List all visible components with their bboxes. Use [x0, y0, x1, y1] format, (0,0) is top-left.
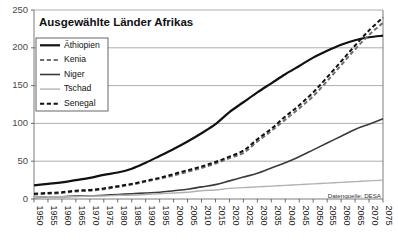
- x-tick-label: 1975: [105, 206, 115, 226]
- x-tick-label: 2065: [356, 206, 366, 226]
- y-tick-label: 100: [12, 117, 28, 128]
- x-tick-label: 2040: [287, 206, 297, 226]
- x-tick-label: 1965: [77, 206, 87, 226]
- legend: ÄthiopienKeniaNigerTschadSenegal: [36, 38, 108, 111]
- y-tick-label: 200: [12, 41, 28, 52]
- x-tick-label: 2060: [342, 206, 352, 226]
- legend-label-niger: Niger: [64, 69, 85, 79]
- chart-container: 050100150200250 195019551960196519701975…: [0, 0, 398, 248]
- legend-label-tschad: Tschad: [64, 83, 91, 93]
- y-tick-label: 250: [12, 4, 28, 15]
- x-tick-label: 1990: [147, 206, 157, 226]
- line-chart: 050100150200250 195019551960196519701975…: [0, 0, 398, 248]
- x-tick-label: 2050: [315, 206, 325, 226]
- x-tick-label: 2030: [259, 206, 269, 226]
- x-tick-label: 2010: [203, 206, 213, 226]
- x-tick-label: 2045: [301, 206, 311, 226]
- x-tick-label: 2075: [384, 206, 394, 226]
- x-tick-label: 1985: [133, 206, 143, 226]
- y-tick-label: 0: [23, 193, 28, 204]
- source-note: Datenquelle: DESA: [328, 192, 382, 199]
- x-tick-label: 1955: [49, 206, 59, 226]
- chart-title: Ausgewählte Länder Afrikas: [39, 16, 193, 28]
- x-tick-label: 1970: [91, 206, 101, 226]
- x-tick-label: 1980: [119, 206, 129, 226]
- x-axis-tick-labels: 1950195519601965197019751980198519901995…: [35, 206, 394, 226]
- x-tick-label: 2020: [231, 206, 241, 226]
- series-line-niger: [34, 119, 383, 198]
- x-tick-label: 1995: [161, 206, 171, 226]
- y-tick-label: 150: [12, 79, 28, 90]
- x-tick-label: 2025: [245, 206, 255, 226]
- x-tick-label: 2070: [370, 206, 380, 226]
- x-tick-label: 2035: [273, 206, 283, 226]
- y-axis-tick-labels: 050100150200250: [12, 4, 34, 204]
- legend-label--thiopien: Äthiopien: [64, 40, 100, 50]
- y-tick-label: 50: [17, 155, 28, 166]
- x-tick-label: 2055: [328, 206, 338, 226]
- x-tick-label: 2015: [217, 206, 227, 226]
- x-tick-label: 1960: [63, 206, 73, 226]
- x-axis-tick-marks: [34, 199, 383, 203]
- x-tick-label: 2005: [189, 206, 199, 226]
- x-tick-label: 1950: [35, 206, 45, 226]
- x-tick-label: 2000: [175, 206, 185, 226]
- legend-label-kenia: Kenia: [64, 54, 86, 64]
- legend-label-senegal: Senegal: [64, 98, 96, 108]
